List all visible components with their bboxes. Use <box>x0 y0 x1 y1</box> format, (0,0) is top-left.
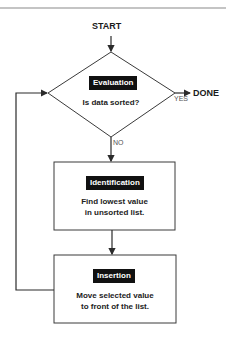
done-label: DONE <box>193 88 219 98</box>
insertion-text-line1: Move selected value <box>54 290 176 301</box>
decision-diamond <box>48 52 175 137</box>
insertion-text-line2: to front of the list. <box>54 301 176 312</box>
decision-question: Is data sorted? <box>66 97 156 108</box>
start-label: START <box>92 21 121 31</box>
identification-tag: Identification <box>86 176 144 190</box>
loop-back-arrow <box>16 93 54 290</box>
evaluation-tag: Evaluation <box>89 76 137 90</box>
insertion-tag: Insertion <box>93 269 135 283</box>
identification-text-line2: in unsorted list. <box>54 207 175 218</box>
flowchart-canvas <box>0 0 230 338</box>
identification-text-line1: Find lowest value <box>54 196 175 207</box>
insertion-box <box>54 255 176 323</box>
no-label: NO <box>113 139 124 146</box>
yes-label: YES <box>174 95 188 102</box>
